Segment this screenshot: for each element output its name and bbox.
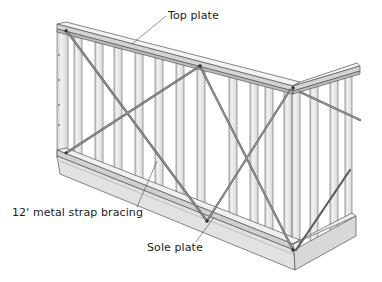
top-plate-label: Top plate [168, 9, 219, 22]
strap-bracing-label: 12' metal strap bracing [12, 206, 143, 219]
wall-framing-illustration [0, 0, 382, 282]
sole-plate-label: Sole plate [147, 241, 203, 254]
top-plate-leader [132, 16, 166, 44]
